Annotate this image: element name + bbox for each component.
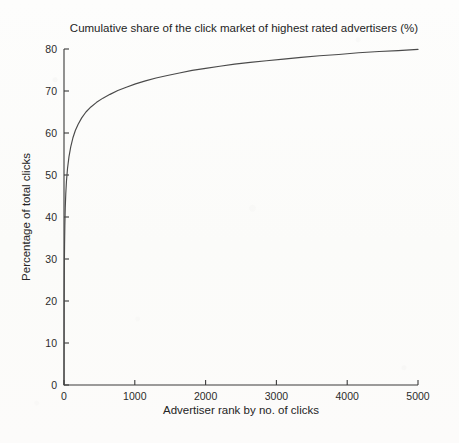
y-tick-label: 30 [45,253,57,265]
y-axis-tick-labels: 01020304050607080 [45,43,57,391]
x-tick-label: 5000 [406,390,430,402]
cumulative-click-share-chart: Cumulative share of the click market of … [0,0,459,443]
y-tick-label: 60 [45,127,57,139]
x-axis-tick-labels: 010002000300040005000 [61,390,430,402]
y-tick-label: 80 [45,43,57,55]
y-tick-label: 10 [45,337,57,349]
y-tick-label: 50 [45,169,57,181]
y-tick-label: 40 [45,211,57,223]
y-tick-label: 20 [45,295,57,307]
y-tick-label: 70 [45,85,57,97]
chart-title: Cumulative share of the click market of … [70,22,419,34]
y-axis-title: Percentage of total clicks [20,153,32,281]
y-tick-label: 0 [51,379,57,391]
x-tick-label: 2000 [194,390,218,402]
x-tick-label: 1000 [123,390,147,402]
data-series-cumulative-click-share [64,49,418,385]
x-tick-label: 0 [61,390,67,402]
x-axis-ticks [64,380,418,385]
chart-figure: Cumulative share of the click market of … [0,0,459,443]
x-tick-label: 3000 [265,390,289,402]
x-tick-label: 4000 [336,390,360,402]
x-axis-title: Advertiser rank by no. of clicks [163,404,319,416]
x-axis: 010002000300040005000 Advertiser rank by… [61,380,430,416]
y-axis: 01020304050607080 Percentage of total cl… [20,43,69,391]
